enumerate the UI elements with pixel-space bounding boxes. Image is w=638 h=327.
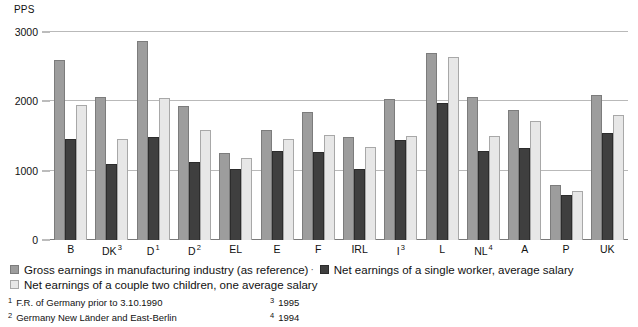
bar-l-series1[interactable]	[437, 103, 448, 240]
bar-d-series1[interactable]	[148, 137, 159, 240]
x-label-text: DK	[102, 245, 117, 257]
bar-e-series2[interactable]	[283, 139, 294, 240]
legend-item-couple[interactable]: Net earnings of a couple two children, o…	[10, 279, 317, 291]
x-label-text: IRL	[351, 243, 367, 255]
bar-l-series2[interactable]	[448, 57, 459, 240]
bar-dk-series1[interactable]	[106, 164, 117, 240]
bar-nl-series2[interactable]	[489, 136, 500, 240]
bar-group-dk-3	[92, 32, 132, 240]
footnote-mark: 1	[8, 296, 12, 305]
legend-row-2: Net earnings of a couple two children, o…	[10, 277, 630, 292]
bar-uk-series1[interactable]	[602, 133, 613, 240]
legend-swatch-couple-icon	[10, 280, 19, 289]
bar-i-series0[interactable]	[384, 99, 395, 240]
bar-f-series0[interactable]	[302, 112, 313, 240]
x-label-uk: UK	[587, 243, 627, 261]
footnote-text: Germany New Länder and East-Berlin	[16, 312, 177, 323]
bar-irl-series2[interactable]	[365, 147, 376, 240]
bar-d-series2[interactable]	[200, 130, 211, 240]
footnote-mark: 2	[8, 311, 12, 320]
x-label-text: B	[67, 243, 74, 255]
x-label-l: L	[422, 243, 462, 261]
footnotes: 1F.R. of Germany prior to 3.10.199031995…	[8, 295, 628, 325]
x-label-text: F	[315, 243, 321, 255]
y-tick-mark-3000	[42, 32, 50, 33]
x-label-nl-4: NL4	[463, 243, 503, 261]
y-tick-label-1000: 1000	[0, 165, 38, 177]
footnote-2: 2Germany New Länder and East-Berlin	[8, 312, 270, 323]
bar-uk-series2[interactable]	[613, 115, 624, 240]
legend-swatch-gross-icon	[10, 265, 19, 274]
legend-label-single: Net earnings of a single worker, average…	[334, 264, 574, 276]
chart-plot-area	[50, 32, 628, 240]
bar-dk-series2[interactable]	[117, 139, 128, 240]
x-label-footnote-mark: 1	[155, 243, 159, 252]
x-label-text: E	[274, 243, 281, 255]
bar-f-series2[interactable]	[324, 135, 335, 240]
bar-d-series0[interactable]	[137, 41, 148, 240]
x-label-f: F	[298, 243, 338, 261]
bar-irl-series1[interactable]	[354, 169, 365, 240]
footnote-row-2: 2Germany New Länder and East-Berlin41994	[8, 310, 628, 325]
bar-group-p	[546, 32, 586, 240]
y-tick-label-3000: 3000	[0, 26, 38, 38]
bar-a-series1[interactable]	[519, 148, 530, 240]
x-label-d-1: D1	[133, 243, 173, 261]
bar-el-series2[interactable]	[241, 158, 252, 241]
bar-i-series2[interactable]	[406, 136, 417, 240]
footnote-text: 1995	[278, 297, 299, 308]
bar-b-series2[interactable]	[76, 105, 87, 240]
footnote-mark: 3	[270, 296, 274, 305]
legend-item-single[interactable]: Net earnings of a single worker, average…	[320, 264, 574, 276]
x-label-a: A	[505, 243, 545, 261]
bar-d-series0[interactable]	[178, 106, 189, 240]
bar-e-series0[interactable]	[261, 130, 272, 240]
bar-i-series1[interactable]	[395, 140, 406, 240]
bar-p-series1[interactable]	[561, 195, 572, 240]
legend-item-gross[interactable]: Gross earnings in manufacturing industry…	[10, 264, 308, 276]
bar-group-d-2	[174, 32, 214, 240]
x-label-footnote-mark: 3	[401, 243, 405, 252]
bar-nl-series0[interactable]	[467, 97, 478, 240]
x-label-text: UK	[600, 243, 615, 255]
bar-el-series0[interactable]	[219, 153, 230, 240]
bar-dk-series0[interactable]	[95, 97, 106, 240]
x-label-text: P	[563, 243, 570, 255]
bar-p-series2[interactable]	[572, 191, 583, 240]
bar-uk-series0[interactable]	[591, 95, 602, 240]
bar-b-series1[interactable]	[65, 139, 76, 240]
bar-f-series1[interactable]	[313, 152, 324, 240]
x-label-d-2: D2	[174, 243, 214, 261]
y-tick-label-2000: 2000	[0, 95, 38, 107]
x-label-text: I	[397, 245, 400, 257]
bar-group-l	[422, 32, 462, 240]
bar-group-el	[216, 32, 256, 240]
bar-irl-series0[interactable]	[343, 137, 354, 240]
x-label-text: L	[439, 243, 445, 255]
x-label-el: EL	[216, 243, 256, 261]
bar-group-e	[257, 32, 297, 240]
bar-d-series2[interactable]	[159, 98, 170, 240]
y-tick-mark-2000	[42, 101, 50, 102]
bar-d-series1[interactable]	[189, 162, 200, 240]
bar-l-series0[interactable]	[426, 53, 437, 240]
bar-a-series0[interactable]	[508, 110, 519, 240]
bar-group-i-3	[381, 32, 421, 240]
x-axis-labels: BDK3D1D2ELEFIRLI3LNL4APUK	[50, 243, 628, 261]
bar-p-series0[interactable]	[550, 185, 561, 240]
bar-groups	[50, 32, 628, 240]
legend-separator: ·	[310, 264, 313, 275]
footnote-text: F.R. of Germany prior to 3.10.1990	[16, 297, 162, 308]
y-tick-mark-0	[42, 240, 50, 241]
x-label-footnote-mark: 3	[118, 243, 122, 252]
legend-row-1: Gross earnings in manufacturing industry…	[10, 262, 630, 277]
bar-nl-series1[interactable]	[478, 151, 489, 240]
x-label-b: B	[51, 243, 91, 261]
bar-a-series2[interactable]	[530, 121, 541, 240]
footnote-row-1: 1F.R. of Germany prior to 3.10.199031995	[8, 295, 628, 310]
bar-e-series1[interactable]	[272, 151, 283, 240]
x-label-text: NL	[474, 245, 487, 257]
bar-b-series0[interactable]	[54, 60, 65, 240]
bar-el-series1[interactable]	[230, 169, 241, 240]
bar-group-a	[505, 32, 545, 240]
